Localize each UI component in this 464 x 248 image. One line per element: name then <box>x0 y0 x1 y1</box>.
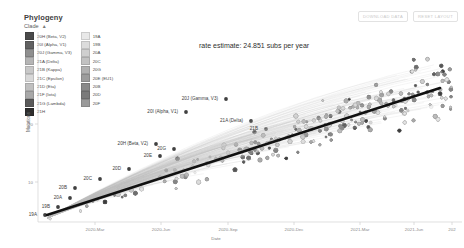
scatter-point[interactable] <box>404 107 406 109</box>
scatter-point[interactable] <box>398 129 401 132</box>
y-axis-title: Mutations <box>26 111 31 132</box>
scatter-point[interactable] <box>450 106 452 108</box>
scatter-point[interactable] <box>133 191 137 195</box>
scatter-point[interactable] <box>103 200 107 204</box>
phylogeny-panel: Phylogeny Clade▲ DOWNLOAD DATA RESET LAY… <box>0 0 464 248</box>
scatter-point[interactable] <box>258 158 262 162</box>
scatter-point-highlighted[interactable] <box>127 167 131 171</box>
connector-line <box>47 112 382 218</box>
scatter-point[interactable] <box>319 144 321 146</box>
x-axis-tick-label: 2020-Jun <box>152 227 171 232</box>
scatter-point[interactable] <box>448 68 451 71</box>
scatter-point[interactable] <box>266 156 269 159</box>
clade-point-label: 19A <box>29 212 38 217</box>
rate-estimate-annotation: rate estimate: 24.851 subs per year <box>199 42 309 49</box>
x-axis-tick-label: 2020-Mar <box>86 227 105 232</box>
scatter-point[interactable] <box>403 112 406 115</box>
connector-line <box>47 125 332 218</box>
scatter-point[interactable] <box>124 194 127 197</box>
scatter-point[interactable] <box>440 96 443 99</box>
clade-point-label: 20E <box>144 153 152 158</box>
scatter-point[interactable] <box>408 93 410 95</box>
clade-point-label: 20A <box>54 195 63 200</box>
scatter-point[interactable] <box>86 205 89 208</box>
scatter-point[interactable] <box>49 218 51 220</box>
scatter-point[interactable] <box>297 151 299 153</box>
x-axis-tick-label: 2021-Mar <box>351 227 370 232</box>
x-axis-tick-label: 2020-Dec <box>284 227 304 232</box>
root-to-tip-scatter: 2020-Mar2020-Jun2020-Sep2020-Dec2021-Mar… <box>0 0 464 248</box>
scatter-point[interactable] <box>79 210 81 212</box>
scatter-point[interactable] <box>417 91 419 93</box>
connector-line <box>47 155 249 218</box>
x-axis-tick-label: 202 <box>448 227 456 232</box>
scatter-point[interactable] <box>173 180 177 184</box>
clade-point-label: 20J (Gamma, V3) <box>182 96 219 101</box>
connector-line <box>47 202 95 218</box>
connector-line <box>47 154 255 218</box>
scatter-point[interactable] <box>330 139 333 142</box>
scatter-point[interactable] <box>121 196 124 199</box>
scatter-point[interactable] <box>175 188 177 190</box>
scatter-point[interactable] <box>197 180 201 184</box>
scatter-point[interactable] <box>450 95 453 98</box>
scatter-point-highlighted[interactable] <box>158 154 162 158</box>
scatter-point[interactable] <box>444 97 447 100</box>
scatter-point[interactable] <box>430 94 433 97</box>
scatter-point[interactable] <box>403 121 406 124</box>
scatter-point[interactable] <box>369 121 372 124</box>
connector-line <box>47 203 91 218</box>
scatter-point[interactable] <box>414 85 416 87</box>
scatter-point[interactable] <box>450 108 452 110</box>
scatter-point[interactable] <box>277 154 280 157</box>
scatter-point[interactable] <box>384 116 386 118</box>
scatter-point[interactable] <box>412 119 415 122</box>
scatter-point[interactable] <box>441 104 444 107</box>
scatter-point[interactable] <box>436 72 440 76</box>
connector-line <box>47 143 276 218</box>
connector-line <box>47 115 406 218</box>
x-axis-tick-label: 2020-Sep <box>218 227 238 232</box>
scatter-point[interactable] <box>426 57 430 61</box>
clade-point-label: 20G <box>157 146 166 151</box>
scatter-point[interactable] <box>449 88 453 92</box>
scatter-point[interactable] <box>312 140 314 142</box>
scatter-point-highlighted[interactable] <box>184 110 188 114</box>
x-axis-tick-label: 2021-Jun <box>405 227 424 232</box>
scatter-point[interactable] <box>433 114 437 118</box>
scatter-point[interactable] <box>440 64 443 67</box>
clade-point-label: 20H (Beta, V2) <box>118 141 149 146</box>
scatter-point-highlighted[interactable] <box>224 97 228 101</box>
connector-line <box>47 91 442 218</box>
x-axis-title: Date <box>211 236 221 241</box>
scatter-point-highlighted[interactable] <box>172 147 176 151</box>
scatter-point[interactable] <box>367 126 370 129</box>
scatter-point[interactable] <box>441 71 443 73</box>
scatter-point[interactable] <box>438 92 442 96</box>
scatter-point[interactable] <box>272 153 275 156</box>
clade-point-label: 21B <box>250 126 258 131</box>
clade-point-labels: 19A19B20A20B20C20D20E20G20H (Beta, V2)20… <box>29 96 258 217</box>
y-axis-tick-label: 10 <box>28 180 33 185</box>
scatter-point[interactable] <box>285 157 288 160</box>
clade-point-label: 21A (Delta) <box>220 118 243 123</box>
connector-line <box>47 165 233 218</box>
scatter-point[interactable] <box>412 58 415 61</box>
clade-point-label: 20D <box>113 166 122 171</box>
scatter-point[interactable] <box>436 117 440 121</box>
connector-line <box>47 123 362 218</box>
clade-point-label: 19B <box>42 204 50 209</box>
clade-point-label: 20B <box>59 185 67 190</box>
scatter-point-highlighted[interactable] <box>73 186 77 190</box>
scatter-point[interactable] <box>242 161 245 164</box>
scatter-point[interactable] <box>233 168 237 172</box>
connector-line <box>47 174 183 218</box>
scatter-point-highlighted[interactable] <box>98 177 102 181</box>
scatter-point-highlighted[interactable] <box>68 196 72 200</box>
scatter-point[interactable] <box>205 178 208 181</box>
scatter-point[interactable] <box>412 98 416 102</box>
regression-line <box>47 88 440 215</box>
scatter-point[interactable] <box>411 70 414 73</box>
scatter-point-highlighted[interactable] <box>56 205 60 209</box>
scatter-point[interactable] <box>443 73 446 76</box>
